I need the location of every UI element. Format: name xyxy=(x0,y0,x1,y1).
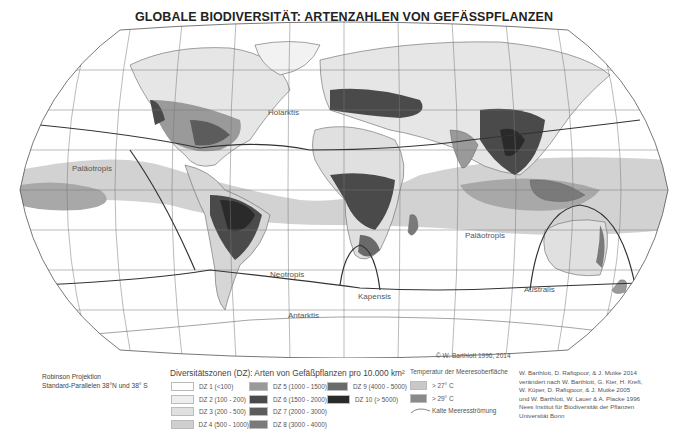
projection-name: Robinson Projektion xyxy=(42,373,148,382)
legend-item: DZ 1 (<100) xyxy=(171,381,249,392)
sea-temp-title: Temperatur der Meeresoberfläche xyxy=(410,368,508,375)
legend-swatch xyxy=(410,381,427,390)
sea-temp-item: > 29° C xyxy=(410,393,496,404)
legend-label: DZ 5 (1000 - 1500) xyxy=(273,383,327,390)
legend-item: DZ 9 (4000 - 5000) xyxy=(327,381,407,392)
label-antarktis: Antarktis xyxy=(288,311,319,320)
label-holarktis: Holarktis xyxy=(268,108,299,117)
copyright: © W. Barthlott 1996, 2014 xyxy=(436,352,511,359)
label-palaeotropis-west: Paläotropis xyxy=(72,164,112,173)
legend-item: DZ 5 (1000 - 1500) xyxy=(249,381,327,392)
label-kapensis: Kapensis xyxy=(358,292,391,301)
credits: W. Barthlott, D. Rafiqpoor, & J. Mutke 2… xyxy=(519,369,642,421)
legend-item: DZ 6 (1500 - 2000) xyxy=(249,394,327,405)
legend-swatch xyxy=(327,382,348,391)
legend-item: DZ 10 (> 5000) xyxy=(327,394,407,405)
legend-label: DZ 4 (500 - 1000) xyxy=(199,421,249,428)
projection-info: Robinson Projektion Standard-Parallelen … xyxy=(42,373,148,390)
legend-swatch xyxy=(327,395,350,404)
legend-item: DZ 7 (2000 - 3000) xyxy=(249,406,327,417)
projection-parallels: Standard-Parallelen 38°N und 38° S xyxy=(42,382,148,391)
legend-swatch xyxy=(171,382,194,391)
credit-line: Universität Bonn xyxy=(519,412,642,421)
legend-label: DZ 1 (<100) xyxy=(199,383,233,390)
legend-label: DZ 8 (3000 - 4000) xyxy=(273,421,327,428)
legend-label: Kalte Meeresströmung xyxy=(432,407,496,414)
cold-current-icon xyxy=(410,406,432,414)
legend-swatch xyxy=(171,407,194,416)
label-neotropis: Neotropis xyxy=(270,270,304,279)
label-australis: Australis xyxy=(524,285,555,294)
credit-line: und W. Barthlott, W. Lauer & A. Placke 1… xyxy=(519,395,642,404)
credit-line: W. Barthlott, D. Rafiqpoor, & J. Mutke 2… xyxy=(519,369,642,378)
legend-item: DZ 4 (500 - 1000) xyxy=(171,419,249,430)
legend-label: DZ 9 (4000 - 5000) xyxy=(353,383,407,390)
legend-item: DZ 3 (200 - 500) xyxy=(171,406,249,417)
sea-temp-item: > 27° C xyxy=(410,380,496,391)
diversity-legend: DZ 1 (<100) DZ 2 (100 - 200) DZ 3 (200 -… xyxy=(171,381,407,430)
cold-current-item: Kalte Meeresströmung xyxy=(410,406,496,414)
credit-line: W. Küper, D. Rafiqpoor, & J. Mutke 2005 xyxy=(519,386,642,395)
sea-temp-legend: > 27° C > 29° C Kalte Meeresströmung xyxy=(410,380,496,414)
legend-swatch xyxy=(171,395,194,404)
legend-title: Diversitätszonen (DZ): Arten von Gefäßpf… xyxy=(170,368,405,378)
legend-item: DZ 8 (3000 - 4000) xyxy=(249,419,327,430)
legend-label: DZ 6 (1500 - 2000) xyxy=(273,396,327,403)
legend-label: DZ 3 (200 - 500) xyxy=(199,408,246,415)
legend-swatch xyxy=(249,407,268,416)
credit-line: Nees Institut für Biodiversität der Pfla… xyxy=(519,403,642,412)
legend-label: > 27° C xyxy=(432,382,454,389)
legend-item: DZ 2 (100 - 200) xyxy=(171,394,249,405)
legend-swatch xyxy=(249,382,268,391)
legend-swatch xyxy=(410,394,427,403)
legend-swatch xyxy=(171,420,194,429)
legend-label: DZ 10 (> 5000) xyxy=(355,396,398,403)
legend-label: DZ 2 (100 - 200) xyxy=(199,396,246,403)
legend-label: DZ 7 (2000 - 3000) xyxy=(273,408,327,415)
legend-swatch xyxy=(249,420,268,429)
credit-line: verändert nach W. Barthlott, G. Kier, H.… xyxy=(519,378,642,387)
legend-swatch xyxy=(249,395,268,404)
world-map: Holarktis Paläotropis Paläotropis Neotro… xyxy=(0,18,688,358)
label-palaeotropis-east: Paläotropis xyxy=(465,231,505,240)
legend-label: > 29° C xyxy=(432,395,454,402)
